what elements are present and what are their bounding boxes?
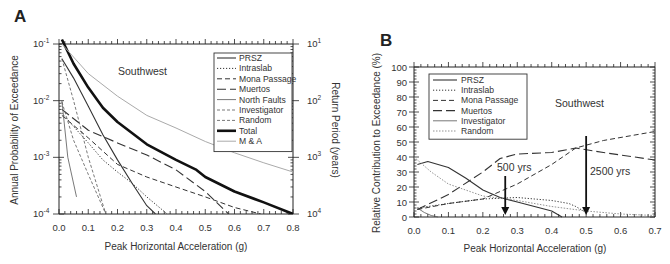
legend-item-label: M & A xyxy=(239,136,262,146)
chart-b-region-label: Southwest xyxy=(555,97,604,109)
chart-b-ytick: 20 xyxy=(396,182,407,193)
chart-a-y2tick: 103 xyxy=(307,150,322,162)
series-north-faults xyxy=(62,101,77,197)
legend-item-label: Intraslab xyxy=(239,63,272,73)
chart-a-xtick: 0.1 xyxy=(82,222,95,233)
chart-b-xtick: 0.4 xyxy=(545,225,558,236)
legend-item-label: Mona Passage xyxy=(461,95,519,105)
legend-item-label: Intraslab xyxy=(461,85,494,95)
chart-a-ytick: 10-1 xyxy=(33,37,50,49)
legend-item-label: Mona Passage xyxy=(239,74,297,84)
chart-b-xtick: 0.3 xyxy=(511,225,524,236)
series-random xyxy=(62,102,106,214)
chart-a-xtick: 0.7 xyxy=(257,222,270,233)
chart-b-ytick: 50 xyxy=(396,137,407,148)
arrow-2500-label: 2500 yrs xyxy=(590,165,630,177)
chart-a-xtick: 0.0 xyxy=(52,222,65,233)
chart-a-ytick: 10-2 xyxy=(33,94,50,106)
chart-b-xlabel: Peak Horizontal Acceleration (g) xyxy=(464,243,607,254)
chart-b-ytick: 0 xyxy=(402,212,407,223)
arrow-head-icon xyxy=(501,207,509,215)
chart-a-xtick: 0.3 xyxy=(140,222,153,233)
chart-b-ytick: 10 xyxy=(396,197,407,208)
chart-b-xtick: 0.6 xyxy=(614,225,627,236)
chart-b-ytick: 90 xyxy=(396,77,407,88)
legend-item-label: North Faults xyxy=(239,95,286,105)
panel-b-label: B xyxy=(380,31,392,50)
chart-a-legend: PRSZIntraslabMona PassageMuertosNorth Fa… xyxy=(214,53,297,152)
chart-b-xtick: 0.7 xyxy=(648,225,661,236)
legend-item-label: Investigator xyxy=(461,116,506,126)
chart-b-xtick: 0.5 xyxy=(580,225,593,236)
series-muertos xyxy=(62,109,229,214)
chart-a-y2tick: 101 xyxy=(307,37,322,49)
chart-a-xtick: 0.2 xyxy=(111,222,124,233)
chart-a-xtick: 0.4 xyxy=(169,222,182,233)
legend-item-label: PRSZ xyxy=(461,75,484,85)
chart-a-xtick: 0.6 xyxy=(228,222,241,233)
chart-a-region-label: Southwest xyxy=(118,65,167,77)
chart-b-ytick: 40 xyxy=(396,152,407,163)
chart-b-xtick: 0.1 xyxy=(442,225,455,236)
chart-b-ylabel: Relative Contribution to Exceedance (%) xyxy=(371,53,382,233)
chart-b-ytick: 100 xyxy=(391,62,407,73)
chart-a-xlabel: Peak Horizontal Acceleration (g) xyxy=(105,241,248,252)
legend-item-label: Muertos xyxy=(461,106,492,116)
chart-b-ytick: 80 xyxy=(396,92,407,103)
legend-item-label: Total xyxy=(239,126,257,136)
chart-b-legend: PRSZIntraslabMona PassageMuertosInvestig… xyxy=(429,74,527,139)
legend-item-label: Investigator xyxy=(239,105,284,115)
panel-a-label: A xyxy=(14,7,26,26)
series-prsz xyxy=(62,59,156,214)
chart-b-ytick: 60 xyxy=(396,122,407,133)
chart-a-ylabel: Annual Probability of Exceedance xyxy=(9,55,20,205)
legend-item-label: PRSZ xyxy=(239,53,262,63)
legend-item-label: Random xyxy=(461,126,493,136)
chart-a-y2tick: 102 xyxy=(307,94,322,106)
figure: A 0.00.10.20.30.40.50.60.70.810-110110-2… xyxy=(0,0,670,264)
chart-b-ytick: 70 xyxy=(396,107,407,118)
chart-b-ytick: 30 xyxy=(396,167,407,178)
legend-item-label: Muertos xyxy=(239,84,270,94)
legend-item-label: Random xyxy=(239,115,271,125)
chart-a-xtick: 0.8 xyxy=(286,222,299,233)
chart-a-ytick: 10-4 xyxy=(33,207,50,219)
chart-b-xtick: 0.2 xyxy=(476,225,489,236)
series-prsz xyxy=(417,162,562,218)
chart-a-y2label: Return Period (years) xyxy=(330,82,341,178)
chart-a-ytick: 10-3 xyxy=(33,150,50,162)
chart-a-xtick: 0.5 xyxy=(199,222,212,233)
chart-b-xtick: 0.0 xyxy=(407,225,420,236)
series-muertos xyxy=(417,148,655,210)
arrow-500-label: 500 yrs xyxy=(497,161,531,173)
chart-a-y2tick: 104 xyxy=(307,207,322,219)
